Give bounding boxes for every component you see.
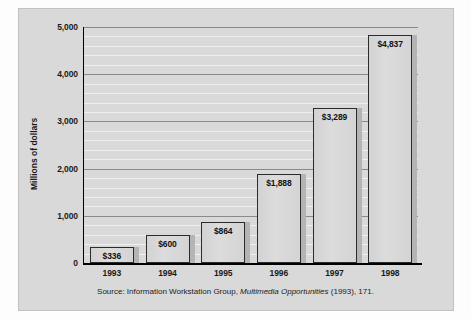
plot-area — [84, 27, 418, 263]
x-axis-tick-label: 1997 — [305, 268, 365, 278]
source-prefix: Source: Information Workstation Group, — [97, 287, 240, 296]
x-axis-tick-label: 1994 — [138, 268, 198, 278]
gridline-major — [84, 27, 418, 28]
bar-1997[interactable] — [313, 108, 357, 263]
source-suffix: (1993), 171. — [329, 287, 374, 296]
bar-value-label: $1,888 — [257, 178, 301, 188]
x-axis-tick-label: 1996 — [249, 268, 309, 278]
x-axis-tick-label: 1993 — [82, 268, 142, 278]
bar-1998[interactable] — [368, 35, 412, 263]
bar-value-label: $336 — [90, 251, 134, 261]
source-note: Source: Information Workstation Group, M… — [0, 287, 471, 296]
bar-value-label: $4,837 — [368, 39, 412, 49]
x-axis-tick-label: 1995 — [193, 268, 253, 278]
y-axis-tick-label: 5,000 — [18, 22, 78, 32]
bar-value-label: $864 — [201, 226, 245, 236]
x-axis-line — [83, 263, 422, 265]
chart-screenshot: 01,0002,0003,0004,0005,000 Millions of d… — [0, 0, 471, 319]
bar-value-label: $600 — [146, 239, 190, 249]
y-axis-tick-label: 4,000 — [18, 69, 78, 79]
x-axis-tick-label: 1998 — [360, 268, 420, 278]
y-axis-tick-label: 0 — [18, 258, 78, 268]
source-title: Multimedia Opportunities — [240, 287, 328, 296]
y-axis-tick-label: 1,000 — [18, 211, 78, 221]
bar-value-label: $3,289 — [313, 112, 357, 122]
y-axis-title: Millions of dollars — [27, 104, 41, 204]
